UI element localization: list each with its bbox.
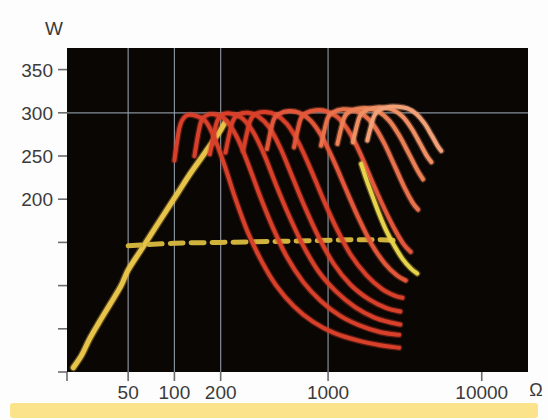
x-tick-label-1000: 1000 <box>307 382 349 403</box>
y-tick-label-200: 200 <box>21 189 53 210</box>
y-tick-label-300: 300 <box>21 103 53 124</box>
y-axis-unit-label: W <box>45 18 63 39</box>
y-tick-label-350: 350 <box>21 60 53 81</box>
chart-figure: 350300250200 50100200100010000 W Ω <box>0 0 548 420</box>
x-axis-unit-label: Ω <box>529 380 542 400</box>
y-tick-label-250: 250 <box>21 146 53 167</box>
x-tick-label-100: 100 <box>159 382 191 403</box>
x-axis-tick-labels: 50100200100010000 <box>118 382 509 403</box>
x-tick-label-10000: 10000 <box>455 382 508 403</box>
x-tick-label-200: 200 <box>205 382 237 403</box>
plot-background <box>67 48 528 372</box>
caption-banner <box>10 403 538 418</box>
power-vs-impedance-chart: 350300250200 50100200100010000 W Ω <box>0 0 548 420</box>
x-axis-ticks <box>67 372 482 381</box>
x-tick-label-50: 50 <box>118 382 139 403</box>
y-axis-ticks <box>58 70 67 372</box>
y-axis-tick-labels: 350300250200 <box>21 60 53 211</box>
